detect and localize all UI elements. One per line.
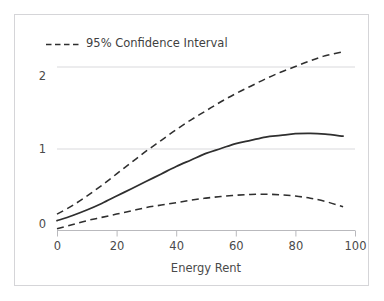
y-tick-label-0: 0 bbox=[24, 217, 46, 231]
x-tick-label-0: 0 bbox=[38, 239, 78, 253]
series-lower-ci-line bbox=[57, 194, 343, 229]
x-tick-label-60: 60 bbox=[216, 239, 256, 253]
x-axis-title: Energy Rent bbox=[57, 261, 355, 275]
y-tick-label-1: 1 bbox=[24, 142, 46, 156]
gridlines bbox=[57, 67, 355, 149]
x-tick-label-40: 40 bbox=[157, 239, 197, 253]
series-estimate bbox=[57, 133, 343, 220]
x-tick-label-80: 80 bbox=[276, 239, 316, 253]
x-tick-label-20: 20 bbox=[97, 239, 137, 253]
x-tick-label-100: 100 bbox=[336, 239, 376, 253]
chart-figure: 2 1 0 0 20 40 60 80 100 Energy Rent 95% … bbox=[0, 0, 384, 301]
y-tick-label-2: 2 bbox=[24, 69, 46, 83]
x-axis-ticks bbox=[58, 231, 356, 237]
legend-item-ci-label: 95% Confidence Interval bbox=[86, 36, 228, 50]
